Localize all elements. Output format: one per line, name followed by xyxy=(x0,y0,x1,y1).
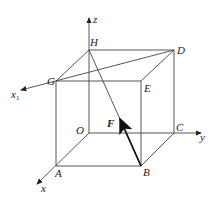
vertex-label-A: A xyxy=(54,167,62,179)
x1-axis-label: x1 xyxy=(10,88,20,102)
z-axis-label: z xyxy=(92,13,98,25)
force-label-F: F xyxy=(106,117,115,129)
vertex-label-D: D xyxy=(176,44,185,56)
vertex-label-H: H xyxy=(89,36,99,48)
vertex-label-C: C xyxy=(176,121,184,133)
y-axis-label: y xyxy=(199,131,205,143)
vertex-label-G: G xyxy=(47,75,55,87)
x-axis xyxy=(37,133,89,184)
edge-BC xyxy=(141,133,174,166)
cube-diagram: z y x x1 H D G E O C A B F xyxy=(0,0,219,202)
x-axis-label: x xyxy=(40,182,46,194)
force-vector-F xyxy=(120,119,141,166)
vertex-label-B: B xyxy=(143,166,150,178)
vertex-label-O: O xyxy=(76,124,84,136)
vertex-label-E: E xyxy=(143,82,151,94)
